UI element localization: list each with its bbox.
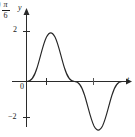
- coordinate-plot: [0, 0, 135, 137]
- y-tick-label-2: 2: [13, 26, 17, 34]
- x-axis-label: t: [127, 76, 129, 84]
- y-axis: [24, 8, 30, 127]
- y-axis-label: y: [18, 4, 22, 12]
- graph-figure: ) y t 2 −2 0 π 6: [0, 0, 135, 137]
- origin-label: 0: [20, 83, 24, 91]
- y-tick-label-negative-2: −2: [8, 113, 17, 121]
